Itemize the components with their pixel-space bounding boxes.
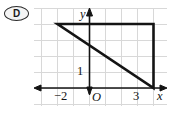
- origin-label: O: [92, 91, 101, 104]
- y-axis-up-arrowhead: [87, 8, 93, 16]
- y-axis-label: y: [80, 8, 86, 21]
- x-axis-left-arrowhead: [34, 85, 41, 91]
- x-tick-label-negative-two: −2: [54, 90, 67, 103]
- y-tick-label-one: 1: [77, 65, 83, 78]
- multiple-choice-graph-figure: D: [0, 0, 171, 123]
- x-tick-label-three: 3: [133, 90, 139, 103]
- y-axis: [87, 8, 93, 95]
- choice-badge-letter: D: [13, 9, 20, 19]
- x-axis-label: x: [157, 90, 163, 103]
- choice-badge-d[interactable]: D: [4, 6, 29, 21]
